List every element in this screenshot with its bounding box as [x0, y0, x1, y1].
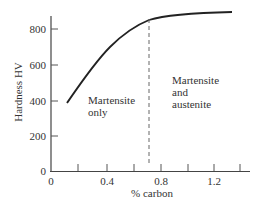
x-axis-title: % carbon	[131, 187, 173, 199]
region-label-martensite-only: Martensite	[88, 94, 135, 106]
y-tick-label: 0	[41, 165, 47, 177]
region-label-martensite-only: only	[88, 106, 108, 118]
y-tick-label: 200	[30, 130, 47, 142]
hardness-chart: 800 600 400 200 0 0 0.4 0.8 1.2 % carbon…	[0, 0, 263, 208]
x-ticks	[78, 164, 240, 171]
region-label-martensite-austenite: Martensite	[172, 74, 219, 86]
x-tick-label: 0.4	[100, 175, 114, 187]
y-ticks	[51, 29, 58, 136]
region-label-martensite-austenite: austenite	[172, 98, 211, 110]
x-tick-label: 0.8	[154, 175, 168, 187]
y-tick-label: 800	[30, 23, 47, 35]
y-tick-label: 600	[30, 59, 47, 71]
y-axis-title: Hardness HV	[12, 62, 24, 122]
y-tick-label: 400	[30, 95, 47, 107]
x-tick-label: 0	[48, 175, 54, 187]
region-label-martensite-austenite: and	[172, 86, 188, 98]
x-tick-label: 1.2	[207, 175, 221, 187]
